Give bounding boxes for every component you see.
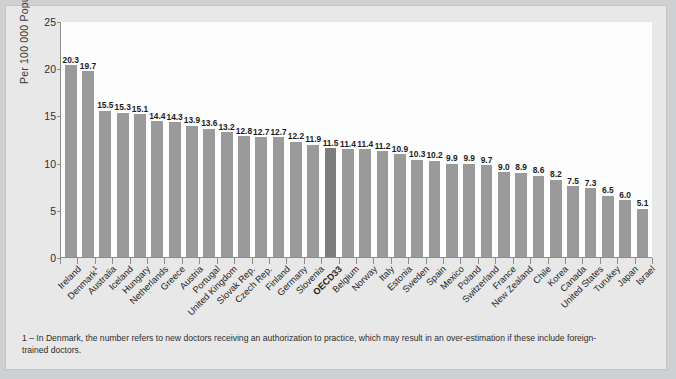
bar-value-label: 9.7 <box>481 155 493 165</box>
bar-value-label: 8.9 <box>515 162 527 172</box>
bar-group[interactable]: 10.9 <box>391 22 408 257</box>
bar-group[interactable]: 13.9 <box>183 22 200 257</box>
bar-group[interactable]: 15.5 <box>97 22 114 257</box>
bar-hungary[interactable]: 15.1 <box>134 114 146 257</box>
bar-group[interactable]: 7.3 <box>582 22 599 257</box>
bar-group[interactable]: 13.6 <box>201 22 218 257</box>
bar-group[interactable]: 14.3 <box>166 22 183 257</box>
bar-group[interactable]: 8.6 <box>530 22 547 257</box>
bar-value-label: 9.9 <box>446 153 458 163</box>
bar-portugal[interactable]: 13.6 <box>203 129 215 257</box>
bar-group[interactable]: 9.9 <box>443 22 460 257</box>
bar-value-label: 12.7 <box>253 127 269 137</box>
bar-israel[interactable]: 5.1 <box>637 209 649 257</box>
bar-group[interactable]: 9.0 <box>495 22 512 257</box>
bar-value-label: 10.9 <box>392 144 408 154</box>
bar-value-label: 13.2 <box>218 122 234 132</box>
bar-chile[interactable]: 8.6 <box>533 176 545 257</box>
bar-japan[interactable]: 6.0 <box>619 200 631 257</box>
bar-value-label: 8.6 <box>533 165 545 175</box>
bar-value-label: 11.2 <box>375 141 391 151</box>
bar-value-label: 14.3 <box>166 112 182 122</box>
bar-iceland[interactable]: 15.3 <box>117 113 129 257</box>
bar-denmark[interactable]: 19.7 <box>82 71 94 257</box>
bar-new-zealand[interactable]: 8.9 <box>515 173 527 257</box>
bar-value-label: 9.9 <box>463 153 475 163</box>
bar-group[interactable]: 10.3 <box>409 22 426 257</box>
bar-group[interactable]: 9.9 <box>461 22 478 257</box>
bar-value-label: 6.0 <box>619 190 631 200</box>
bar-group[interactable]: 6.5 <box>599 22 616 257</box>
y-tick-mark <box>57 69 61 70</box>
y-axis-tick-25: 25 <box>44 16 56 28</box>
bar-value-label: 13.9 <box>184 115 200 125</box>
bar-ireland[interactable]: 20.3 <box>65 65 77 257</box>
bar-group[interactable]: 9.7 <box>478 22 495 257</box>
y-tick-mark <box>57 164 61 165</box>
bar-estonia[interactable]: 10.9 <box>394 154 406 257</box>
bar-finland[interactable]: 12.7 <box>273 137 285 257</box>
bar-czech-rep[interactable]: 12.7 <box>255 137 267 257</box>
bar-value-label: 15.1 <box>132 104 148 114</box>
bar-spain[interactable]: 10.2 <box>429 161 441 257</box>
bar-group[interactable]: 15.3 <box>114 22 131 257</box>
bar-austria[interactable]: 13.9 <box>186 126 198 257</box>
bar-group[interactable]: 12.2 <box>287 22 304 257</box>
bar-group[interactable]: 8.9 <box>513 22 530 257</box>
bar-group[interactable]: 19.7 <box>79 22 96 257</box>
bar-group[interactable]: 11.5 <box>322 22 339 257</box>
bar-canada[interactable]: 7.5 <box>567 186 579 257</box>
bar-group[interactable]: 13.2 <box>218 22 235 257</box>
bar-poland[interactable]: 9.9 <box>463 164 475 257</box>
bar-group[interactable]: 6.0 <box>617 22 634 257</box>
bar-netherlands[interactable]: 14.4 <box>151 121 163 257</box>
bar-group[interactable]: 12.7 <box>270 22 287 257</box>
y-axis-tick-20: 20 <box>44 63 56 75</box>
bar-value-label: 8.2 <box>550 169 562 179</box>
bar-group[interactable]: 12.7 <box>253 22 270 257</box>
bar-value-label: 10.2 <box>426 150 442 160</box>
bar-value-label: 7.5 <box>567 176 579 186</box>
y-axis-tick-labels: 0510152025 <box>30 14 56 258</box>
y-axis-tick-15: 15 <box>44 110 56 122</box>
bar-group[interactable]: 12.8 <box>235 22 252 257</box>
bar-slovenia[interactable]: 11.9 <box>307 145 319 257</box>
bar-group[interactable]: 11.4 <box>339 22 356 257</box>
bar-united-kingdom[interactable]: 13.2 <box>221 132 233 257</box>
bar-germany[interactable]: 12.2 <box>290 142 302 257</box>
bar-greece[interactable]: 14.3 <box>169 122 181 257</box>
bar-group[interactable]: 11.9 <box>305 22 322 257</box>
bar-sweden[interactable]: 10.3 <box>411 160 423 257</box>
bar-group[interactable]: 8.2 <box>547 22 564 257</box>
bar-belgium[interactable]: 11.4 <box>342 149 354 257</box>
y-axis-tick-5: 5 <box>50 205 56 217</box>
bar-group[interactable]: 20.3 <box>62 22 79 257</box>
bar-oecd33[interactable]: 11.5 <box>325 148 337 257</box>
bar-italy[interactable]: 11.2 <box>377 151 389 257</box>
bar-value-label: 9.0 <box>498 162 510 172</box>
bar-united-states[interactable]: 7.3 <box>585 188 597 257</box>
bar-switzerland[interactable]: 9.7 <box>481 165 493 257</box>
bar-group[interactable]: 14.4 <box>149 22 166 257</box>
bar-value-label: 15.3 <box>114 102 130 112</box>
figure-panel: Per 100 000 Population 0510152025 20.319… <box>6 6 666 369</box>
bar-value-label: 6.5 <box>602 185 614 195</box>
footnote-marker: 1 <box>91 264 99 272</box>
bar-group[interactable]: 15.1 <box>131 22 148 257</box>
bar-value-label: 11.4 <box>357 139 373 149</box>
bar-group[interactable]: 10.2 <box>426 22 443 257</box>
bar-korea[interactable]: 8.2 <box>550 180 562 257</box>
bar-norway[interactable]: 11.4 <box>359 149 371 257</box>
bar-mexico[interactable]: 9.9 <box>446 164 458 257</box>
bar-group[interactable]: 7.5 <box>565 22 582 257</box>
x-tick-mark <box>652 258 653 264</box>
bar-turukey[interactable]: 6.5 <box>602 196 614 257</box>
bar-australia[interactable]: 15.5 <box>99 111 111 257</box>
bar-slovak-rep[interactable]: 12.8 <box>238 136 250 257</box>
bar-group[interactable]: 11.2 <box>374 22 391 257</box>
bar-group[interactable]: 11.4 <box>357 22 374 257</box>
bar-value-label: 19.7 <box>80 61 96 71</box>
bar-france[interactable]: 9.0 <box>498 172 510 257</box>
y-tick-mark <box>57 116 61 117</box>
bar-group[interactable]: 5.1 <box>634 22 651 257</box>
